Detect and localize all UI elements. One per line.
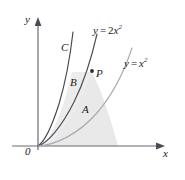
- curve-x2-label-exponent: 2: [144, 56, 147, 63]
- y-axis-arrowhead: [35, 17, 42, 26]
- origin-label: 0: [25, 146, 31, 157]
- curve-c-label: C: [61, 42, 68, 53]
- y-axis-label: y: [25, 14, 30, 25]
- curve-x2-label-equals: =: [131, 57, 137, 69]
- curve-x2-label-y: y: [124, 57, 129, 69]
- curve-2x2-label: y=2x2: [93, 25, 122, 36]
- curve-2x2-label-equals: =: [100, 24, 106, 36]
- curve-2x2-label-y: y: [93, 24, 98, 36]
- region-a-label: A: [82, 104, 89, 115]
- curve-x2-label: y=x2: [124, 58, 147, 69]
- region-b-label: B: [70, 77, 77, 88]
- point-p-label: P: [96, 68, 103, 79]
- curve-2x2-label-exponent: 2: [119, 23, 122, 30]
- math-figure: y x 0 C B A P y=2x2 y=x2: [0, 0, 185, 180]
- point-p-marker: [90, 69, 94, 73]
- x-axis-label: x: [163, 148, 168, 159]
